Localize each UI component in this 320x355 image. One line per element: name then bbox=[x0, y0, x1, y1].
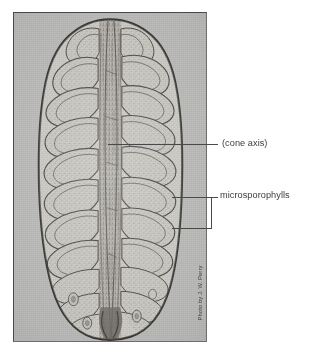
micrograph-photo: Photo by J. W. Perry bbox=[13, 12, 207, 342]
cone-axis-leader-line bbox=[108, 144, 218, 145]
photo-credit: Photo by J. W. Perry bbox=[196, 247, 205, 339]
specimen-svg bbox=[14, 13, 206, 341]
micrograph-canvas: Photo by J. W. Perry bbox=[14, 13, 206, 341]
cone-axis-label: (cone axis) bbox=[222, 139, 267, 148]
microsporophylls-bracket bbox=[211, 197, 212, 229]
microsporophylls-label: microsporophylls bbox=[220, 191, 290, 200]
cone-body bbox=[14, 13, 206, 341]
microsporophylls-leader-bottom bbox=[172, 228, 211, 229]
cone-longitudinal-section bbox=[14, 13, 206, 341]
figure-plate: Photo by J. W. Perry (cone axis) microsp… bbox=[0, 0, 320, 355]
photo-credit-text: Photo by J. W. Perry bbox=[198, 266, 204, 321]
cone-axis-tissue bbox=[99, 19, 121, 339]
